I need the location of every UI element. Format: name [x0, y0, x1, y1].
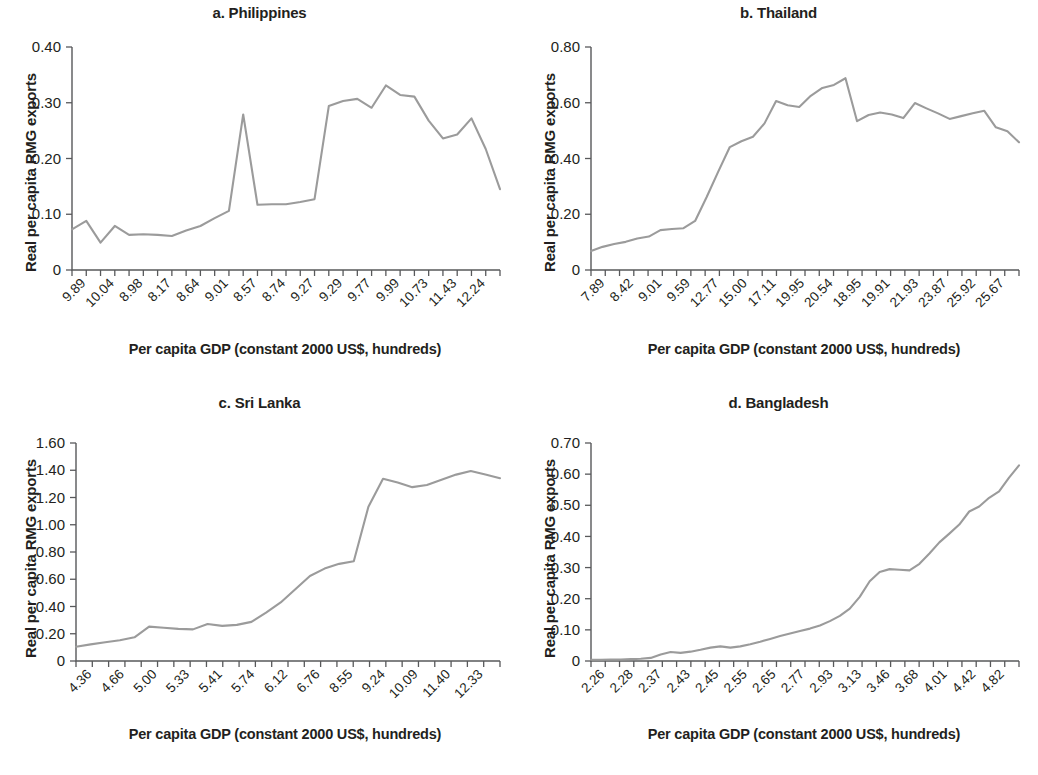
- x-tick-label: 6.76: [294, 667, 323, 696]
- x-tick-label: 2.26: [578, 667, 607, 696]
- x-tick-label: 23.87: [915, 276, 950, 311]
- series-line: [591, 465, 1019, 659]
- panel-c-srilanka: c. Sri Lanka Real per capita RMG exports…: [0, 390, 519, 775]
- x-tick-label: 15.00: [716, 276, 751, 311]
- figure-root: a. Philippines Real per capita RMG expor…: [0, 0, 1038, 775]
- panel-d-ylabel: Real per capita RMG exports: [541, 459, 558, 658]
- x-tick-label: 2.55: [721, 667, 750, 696]
- panel-a-philippines: a. Philippines Real per capita RMG expor…: [0, 0, 519, 390]
- x-tick-label: 8.55: [326, 667, 355, 696]
- panel-b-thailand: b. Thailand Real per capita RMG exports …: [519, 0, 1038, 390]
- y-tick-label: 1.20: [36, 489, 65, 506]
- y-tick-label: 0.80: [36, 543, 65, 560]
- x-tick-label: 9.29: [316, 276, 345, 305]
- x-tick-label: 10.09: [386, 667, 421, 702]
- x-tick-label: 19.91: [858, 276, 893, 311]
- y-tick-label: 0.70: [551, 434, 580, 451]
- x-tick-label: 9.77: [345, 276, 374, 305]
- panel-d-plot: 0.700.600.500.400.300.200.1002.262.282.3…: [519, 390, 1038, 725]
- x-tick-label: 8.42: [607, 276, 636, 305]
- axis-lines: [591, 47, 1019, 270]
- series-line: [76, 471, 500, 647]
- x-tick-label: 3.13: [835, 667, 864, 696]
- panel-b-plot: 0.800.600.400.2007.898.429.019.5912.7715…: [519, 0, 1038, 340]
- series-line: [591, 78, 1019, 251]
- x-tick-label: 9.01: [202, 276, 231, 305]
- x-tick-label: 20.54: [801, 275, 836, 310]
- x-tick-label: 9.24: [359, 666, 389, 696]
- panel-a-xlabel: Per capita GDP (constant 2000 US$, hundr…: [55, 341, 515, 357]
- x-tick-label: 9.01: [635, 276, 664, 305]
- panel-d-title: d. Bangladesh: [519, 394, 1038, 411]
- y-tick-label: 0.40: [32, 38, 61, 55]
- x-tick-label: 11.43: [426, 276, 460, 310]
- x-tick-label: 12.77: [687, 276, 722, 311]
- x-tick-label: 17.11: [745, 276, 779, 310]
- x-tick-label: 8.57: [230, 276, 259, 305]
- panel-d-bangladesh: d. Bangladesh Real per capita RMG export…: [519, 390, 1038, 775]
- y-tick-label: 0.60: [36, 570, 65, 587]
- y-tick-label: 0.40: [36, 598, 65, 615]
- x-tick-label: 12.24: [453, 275, 488, 310]
- x-tick-label: 25.92: [944, 276, 979, 311]
- x-tick-label: 4.66: [98, 667, 127, 696]
- x-tick-label: 7.89: [578, 276, 607, 305]
- x-tick-label: 19.95: [773, 276, 808, 311]
- axis-lines: [76, 443, 500, 661]
- panel-a-ylabel: Real per capita RMG exports: [22, 73, 39, 272]
- x-tick-label: 8.74: [259, 275, 289, 305]
- x-tick-label: 8.64: [173, 275, 203, 305]
- x-tick-label: 4.82: [978, 667, 1007, 696]
- x-tick-label: 4.36: [65, 667, 94, 696]
- panel-b-xlabel: Per capita GDP (constant 2000 US$, hundr…: [574, 341, 1034, 357]
- panel-c-title: c. Sri Lanka: [0, 394, 519, 411]
- x-tick-label: 12.33: [451, 667, 486, 702]
- panel-c-xlabel: Per capita GDP (constant 2000 US$, hundr…: [55, 726, 515, 742]
- panel-a-title: a. Philippines: [0, 4, 519, 21]
- x-tick-label: 2.45: [692, 667, 721, 696]
- y-tick-label: 0: [572, 652, 580, 669]
- x-tick-label: 3.46: [864, 667, 893, 696]
- y-tick-label: 0: [57, 652, 65, 669]
- x-tick-label: 4.42: [949, 667, 978, 696]
- y-tick-label: 1.60: [36, 434, 65, 451]
- axis-lines: [72, 47, 500, 270]
- panel-b-ylabel: Real per capita RMG exports: [541, 73, 558, 272]
- y-tick-label: 0.20: [36, 625, 65, 642]
- x-tick-label: 3.68: [892, 667, 921, 696]
- x-tick-label: 2.93: [806, 667, 835, 696]
- x-tick-label: 4.01: [921, 667, 950, 696]
- x-tick-label: 25.67: [972, 276, 1007, 311]
- y-tick-label: 0: [572, 261, 580, 278]
- x-tick-label: 10.73: [396, 276, 431, 311]
- x-tick-label: 2.65: [749, 667, 778, 696]
- x-tick-label: 18.95: [830, 276, 865, 311]
- x-tick-label: 2.37: [635, 667, 664, 696]
- x-tick-label: 5.00: [130, 667, 159, 696]
- y-tick-label: 1.40: [36, 461, 65, 478]
- x-tick-label: 2.43: [664, 667, 693, 696]
- x-tick-label: 11.40: [419, 667, 453, 701]
- x-tick-label: 5.33: [163, 667, 192, 696]
- y-tick-label: 1.00: [36, 516, 65, 533]
- x-tick-label: 2.28: [607, 667, 636, 696]
- y-tick-label: 0.80: [551, 38, 580, 55]
- x-tick-label: 8.98: [116, 276, 145, 305]
- x-tick-label: 2.77: [778, 667, 807, 696]
- panel-c-ylabel: Real per capita RMG exports: [22, 459, 39, 658]
- panel-d-xlabel: Per capita GDP (constant 2000 US$, hundr…: [574, 726, 1034, 742]
- y-tick-label: 0: [53, 261, 61, 278]
- panel-b-title: b. Thailand: [519, 4, 1038, 21]
- panel-c-plot: 1.601.401.201.000.800.600.400.2004.364.6…: [0, 390, 519, 725]
- x-tick-label: 21.93: [887, 276, 922, 311]
- series-line: [72, 85, 500, 242]
- x-tick-label: 5.74: [228, 666, 258, 696]
- x-tick-label: 8.17: [145, 276, 174, 305]
- x-tick-label: 9.27: [287, 276, 316, 305]
- x-tick-label: 6.12: [261, 667, 290, 696]
- panel-a-plot: 0.400.300.200.1009.8910.048.988.178.649.…: [0, 0, 519, 340]
- x-tick-label: 10.04: [82, 275, 117, 310]
- axis-lines: [591, 443, 1019, 661]
- x-tick-label: 5.41: [196, 667, 225, 696]
